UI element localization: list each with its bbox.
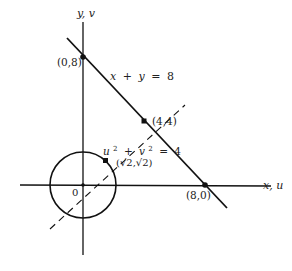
origin-label: 0 xyxy=(72,187,78,198)
vertical-axis-label: y, v xyxy=(76,7,96,20)
point-sqrt2-sqrt2 xyxy=(103,158,108,163)
point-label-4-4: (4,4) xyxy=(152,115,177,127)
point-4-4 xyxy=(142,119,147,124)
diagram: y, v x, u 0 (0,8) (4,4) (8,0) (√2,√2) x … xyxy=(0,0,292,271)
point-label-8-0: (8,0) xyxy=(186,189,211,201)
horizontal-axis xyxy=(20,185,271,186)
circle-equation: u 2 + v 2 = 4 xyxy=(103,141,181,157)
origin-point xyxy=(81,183,85,187)
line-equation: x + y = 8 xyxy=(110,70,174,83)
line-x-plus-y-8 xyxy=(67,38,227,208)
point-label-0-8: (0,8) xyxy=(57,56,82,68)
horizontal-axis-label: x, u xyxy=(263,179,283,192)
point-8-0 xyxy=(202,182,208,188)
point-label-sqrt2: (√2,√2) xyxy=(116,157,153,168)
